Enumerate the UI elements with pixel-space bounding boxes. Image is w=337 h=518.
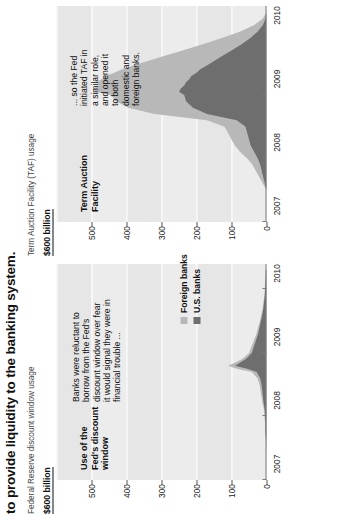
y-axis-tick-label: 100 xyxy=(226,484,236,498)
y-axis-tick-mark xyxy=(161,222,162,227)
plot-area-term-auction-facility: 01002003004005002007200820092010 xyxy=(56,6,284,256)
y-axis-tick-mark xyxy=(126,222,127,227)
x-axis-tick-mark xyxy=(262,479,266,480)
y-axis-unit: $600 billion xyxy=(41,467,53,514)
x-axis-tick-label: 2009 xyxy=(271,328,281,347)
y-axis-tick-label: 500 xyxy=(86,484,96,498)
y-axis-tick-mark xyxy=(266,480,267,485)
y-axis-tick-label: 200 xyxy=(191,484,201,498)
x-axis-tick-label: 2007 xyxy=(271,197,281,216)
x-axis-tick-mark xyxy=(262,30,266,31)
y-axis-tick-mark xyxy=(266,222,267,227)
x-axis-line xyxy=(265,264,266,480)
y-axis-tick-mark xyxy=(91,480,92,485)
y-axis-tick-label: 300 xyxy=(156,484,166,498)
x-axis-tick-mark xyxy=(262,94,266,95)
y-axis-tick-label: 400 xyxy=(121,484,131,498)
y-axis-tick-label: 500 xyxy=(86,226,96,240)
x-axis-tick-label: 2010 xyxy=(271,6,281,25)
y-axis-unit: $600 billion xyxy=(41,209,53,256)
y-axis-tick-label: 100 xyxy=(226,226,236,240)
legend-label: U.S. banks xyxy=(191,269,201,313)
panel-discount-window: Federal Reserve discount window usage $6… xyxy=(26,264,326,514)
figure: to provide liquidity to the banking syst… xyxy=(0,0,337,518)
page-title: to provide liquidity to the banking syst… xyxy=(2,252,17,514)
y-axis-tick-mark xyxy=(126,480,127,485)
x-axis-tick-label: 2010 xyxy=(271,264,281,283)
rotated-figure-wrapper: to provide liquidity to the banking syst… xyxy=(0,0,337,518)
x-axis-tick-mark xyxy=(262,157,266,158)
x-axis-tick-mark xyxy=(262,288,266,289)
y-axis-tick-mark xyxy=(91,222,92,227)
us-banks-swatch xyxy=(193,317,200,324)
y-axis-tick-label: 400 xyxy=(121,226,131,240)
x-axis-tick-mark xyxy=(262,352,266,353)
y-axis-tick-mark xyxy=(196,222,197,227)
legend: Foreign banks U.S. banks xyxy=(178,254,204,324)
facility-label-taf: Term Auction Facility xyxy=(78,155,99,212)
x-axis-line xyxy=(265,6,266,222)
facility-label-discount-window: Use of the Fed's discount window xyxy=(78,407,110,470)
annotation-taf: ... so the Fed initiated TAF in a simila… xyxy=(68,49,140,106)
area-us-banks xyxy=(235,270,267,480)
foreign-banks-swatch xyxy=(180,317,187,324)
y-axis-tick-mark xyxy=(196,480,197,485)
x-axis-tick-label: 2008 xyxy=(271,133,281,152)
y-axis-tick-mark xyxy=(161,480,162,485)
x-axis-tick-mark xyxy=(262,415,266,416)
x-axis-tick-label: 2008 xyxy=(271,391,281,410)
x-axis-tick-label: 2009 xyxy=(271,70,281,89)
panel-subtitle: Federal Reserve discount window usage xyxy=(26,367,35,514)
y-axis-tick-label: 200 xyxy=(191,226,201,240)
legend-label: Foreign banks xyxy=(178,254,188,313)
legend-item-foreign-banks: Foreign banks xyxy=(178,254,188,324)
x-axis-tick-label: 2007 xyxy=(271,455,281,474)
panel-subtitle: Term Auction Facility (TAF) usage xyxy=(26,134,35,256)
x-axis-tick-mark xyxy=(262,221,266,222)
legend-item-us-banks: U.S. banks xyxy=(191,254,201,324)
y-axis-tick-mark xyxy=(231,222,232,227)
annotation-discount-window: Banks were reluctant to borrow from the … xyxy=(70,299,122,402)
y-axis-tick-mark xyxy=(231,480,232,485)
panel-term-auction-facility: Term Auction Facility (TAF) usage $600 b… xyxy=(26,6,326,256)
y-axis-tick-label: 300 xyxy=(156,226,166,240)
